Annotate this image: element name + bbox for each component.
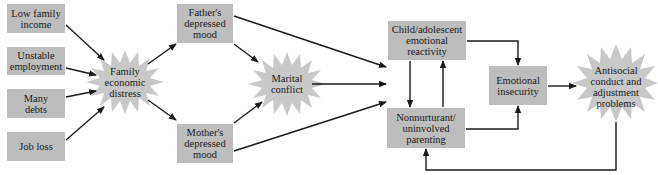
node-emotional-insecurity: Emotionalinsecurity [489,66,547,105]
node-label-line: Family [110,66,140,77]
node-label-line: parenting [406,134,446,145]
node-label-line: mood [193,29,217,40]
node-fathers-depressed-mood: Father'sdepressedmood [177,4,233,43]
node-label-line: Marital [272,73,303,84]
node-label-line: depressed [184,18,225,29]
edge-jobloss-to-distress [66,107,104,140]
node-label-line: conduct and [590,76,641,87]
edge-father-to-conflict [234,44,258,62]
node-label-line: distress [109,88,141,99]
node-antisocial-conduct-and-adjustment-problems: Antisocialconduct andadjustmentproblems [584,64,648,110]
node-label-line: Mother's [187,127,224,138]
node-label-line: Many [24,93,49,104]
edge-parenting-to-insecurity [466,106,518,129]
node-label-line: conflict [271,84,303,95]
node-label-line: depressed [184,138,225,149]
edge-debts-to-distress [66,91,96,97]
node-label-line: Emotional [496,75,540,86]
node-label-line: Nonnurturant/ [396,112,456,123]
node-label-line: uninvolved [402,123,449,134]
node-label-line: Job loss [19,141,53,152]
edge-child-to-insecurity [467,41,518,65]
node-label-line: debts [25,104,47,115]
node-label-line: problems [596,98,635,109]
node-label-line: Father's [189,7,222,18]
node-child-adolescent-emotional-reactivity: Child/adolescentemotionalreactivity [388,21,466,60]
edge-income-to-distress [66,25,104,60]
node-label-line: reactivity [407,46,447,57]
node-mothers-depressed-mood: Mother'sdepressedmood [177,124,233,163]
node-label-line: emotional [406,35,448,46]
node-label-line: income [21,19,52,30]
node-unstable-employment: Unstableemployment [7,47,65,75]
node-low-family-income: Low familyincome [7,4,65,33]
node-many-debts: Manydebts [7,89,65,118]
node-nonnurturant-uninvolved-parenting: Nonnurturant/uninvolvedparenting [387,108,465,148]
edge-mother-to-conflict [234,102,262,123]
node-label-line: employment [10,61,63,72]
edge-distress-to-father [148,44,176,64]
edge-mother-to-child-cluster [234,102,386,151]
node-label-line: insecurity [497,86,538,97]
edge-father-to-child-cluster [234,16,386,67]
node-marital-conflict: Maritalconflict [260,72,314,96]
edge-employment-to-distress [66,68,96,75]
node-label-line: Unstable [17,50,54,61]
node-label-line: mood [193,149,217,160]
node-label-line: Antisocial [594,65,637,76]
node-label-line: Low family [11,8,60,19]
node-family-economic-distress: Familyeconomicdistress [95,64,155,100]
node-label-line: Child/adolescent [392,24,463,35]
node-label-line: adjustment [593,87,639,98]
node-job-loss: Job loss [7,132,65,161]
edge-distress-to-mother [148,100,176,120]
node-label-line: economic [105,77,146,88]
